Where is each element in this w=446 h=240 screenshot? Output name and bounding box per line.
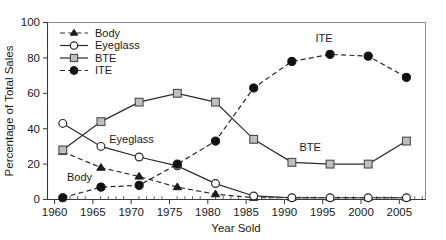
data-point [364,160,372,168]
x-axis-title: Year Sold [211,222,260,234]
data-point [135,153,143,161]
data-point [97,183,105,191]
series-annotation-bte: BTE [299,141,320,153]
data-point [288,194,296,202]
x-tick-label: 1960 [42,206,68,218]
data-point [288,158,296,166]
x-tick-label: 2000 [348,206,374,218]
y-tick-label: 80 [27,52,40,64]
data-point [135,181,143,189]
data-point [173,89,181,97]
data-point [250,84,258,92]
x-tick-label: 1970 [118,206,144,218]
y-axis-tick-labels: 0 20 40 60 80 100 [21,16,40,205]
data-point [364,194,372,202]
legend-entry-bte: BTE [60,52,116,64]
x-tick-label: 1990 [272,206,298,218]
data-point [97,118,105,126]
legend-entry-ite: ITE [60,64,112,76]
chart-legend: Body Eyeglass BTE ITE [60,27,140,77]
data-point [135,98,143,106]
series-annotation-ite: ITE [315,32,332,44]
y-tick-label: 100 [21,16,40,28]
x-tick-label: 1985 [233,206,259,218]
data-point [59,119,67,127]
data-point [211,137,219,145]
x-axis-tick-labels: 1960 1965 1970 1975 1980 1985 1990 1995 … [42,206,412,218]
legend-label-ite: ITE [95,64,112,76]
y-axis-title: Percentage of Total Sales [3,45,15,176]
series-line [63,93,407,164]
data-point [59,146,67,154]
y-tick-label: 60 [27,87,40,99]
x-axis-ticks [55,200,400,205]
x-tick-label: 1995 [310,206,336,218]
legend-label-body: Body [95,27,121,39]
legend-label-bte: BTE [95,52,116,64]
data-point [326,50,334,58]
data-point [250,135,258,143]
y-axis-ticks [43,23,48,200]
data-point [212,180,220,188]
legend-entry-body: Body [60,27,121,39]
series-eyeglass [59,119,410,201]
x-tick-label: 1975 [157,206,183,218]
data-point [364,52,372,60]
y-tick-label: 20 [27,158,40,170]
data-point [403,137,411,145]
y-tick-label: 0 [34,193,40,205]
legend-label-eyeglass: Eyeglass [95,39,140,51]
series-line [63,152,407,198]
data-point [97,143,105,151]
x-tick-label: 2005 [387,206,413,218]
data-point [326,194,334,202]
legend-entry-eyeglass: Eyeglass [60,39,140,51]
line-chart: 0 20 40 60 80 100 Percentage of Total Sa… [0,0,446,240]
data-point [59,194,67,202]
data-point [250,192,258,200]
series-annotation-eyeglass: Eyeglass [109,133,154,145]
series-annotation-body: Body [67,171,93,183]
data-point [288,57,296,65]
y-tick-label: 40 [27,123,40,135]
series-bte [59,89,410,168]
chart-figure: 0 20 40 60 80 100 Percentage of Total Sa… [0,0,446,240]
data-point [173,160,181,168]
x-tick-label: 1965 [80,206,106,218]
data-point [403,194,411,202]
data-point [326,160,334,168]
data-point [402,73,410,81]
series-line [63,54,407,197]
x-tick-label: 1980 [195,206,221,218]
data-point [97,164,105,171]
series-body [59,148,411,201]
data-point [212,98,220,106]
